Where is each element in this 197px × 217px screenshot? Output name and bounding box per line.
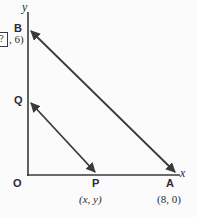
coordinate-text-b: , 6) [9,34,24,45]
segment-BA [31,31,175,172]
coordinate-diagram: y x B Q O P A ?, 6) (x, y) (8, 0) [0,0,197,217]
point-label-a: A [166,178,174,189]
x-axis-label: x [180,167,185,179]
coordinate-label-a: (8, 0) [157,194,181,205]
point-label-q: Q [14,95,23,106]
point-label-p: P [92,178,99,189]
coordinate-label-b: ?, 6) [0,32,24,47]
segment-QP [31,103,95,172]
point-label-o: O [13,178,22,189]
answer-input-box-b-x[interactable]: ? [0,32,8,47]
y-axis-label: y [22,1,27,13]
coordinate-label-p: (x, y) [79,194,102,205]
